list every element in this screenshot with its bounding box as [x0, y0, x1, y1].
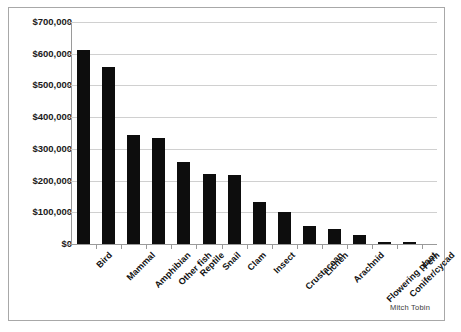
bar	[77, 50, 90, 244]
y-axis-labels: $0$100,000$200,000$300,000$400,000$500,0…	[9, 8, 72, 332]
chart-figure: $0$100,000$200,000$300,000$400,000$500,0…	[0, 0, 461, 332]
y-axis-tick	[66, 22, 71, 23]
x-axis-tick	[222, 245, 223, 249]
y-axis-tick-label: $500,000	[10, 80, 72, 90]
y-axis-tick	[66, 85, 71, 86]
bar	[353, 235, 366, 245]
bar	[378, 242, 391, 245]
x-axis-tick	[171, 245, 172, 249]
x-axis-tick-label: Insect	[272, 250, 297, 275]
x-axis-tick	[96, 245, 97, 249]
x-axis-tick	[247, 245, 248, 249]
chart-frame: $0$100,000$200,000$300,000$400,000$500,0…	[8, 7, 445, 321]
bar	[403, 242, 416, 244]
x-axis-tick-label: Arachnid	[351, 250, 386, 285]
bar	[253, 202, 266, 244]
bar	[177, 162, 190, 244]
x-axis-tick	[146, 245, 147, 249]
x-axis-tick-label: Snail	[220, 250, 242, 272]
x-axis-tick	[196, 245, 197, 249]
y-axis-tick-label: $100,000	[10, 207, 72, 217]
bar	[228, 175, 241, 244]
x-axis-tick-label: Bird	[94, 250, 114, 270]
y-axis-tick	[66, 212, 71, 213]
bar	[203, 174, 216, 244]
y-axis-tick-label: $300,000	[10, 144, 72, 154]
y-axis-tick	[66, 54, 71, 55]
y-axis-tick-label: $700,000	[10, 17, 72, 27]
x-axis-tick	[322, 245, 323, 249]
bar	[127, 135, 140, 244]
y-axis-tick-label: $200,000	[10, 176, 72, 186]
y-axis-tick	[66, 244, 71, 245]
y-axis-tick	[66, 149, 71, 150]
x-axis-tick	[121, 245, 122, 249]
chart-credit: Mitch Tobin	[390, 303, 430, 312]
bar-series	[71, 22, 437, 244]
gridline	[71, 244, 437, 245]
bar	[278, 212, 291, 244]
x-axis-tick-label: Clam	[246, 250, 269, 273]
bar	[102, 67, 115, 244]
x-axis-tick	[297, 245, 298, 249]
x-axis-tick	[272, 245, 273, 249]
x-axis-tick-label: Mammal	[124, 250, 157, 283]
x-axis-tick	[422, 245, 423, 249]
bar	[328, 229, 341, 244]
y-axis-tick-label: $400,000	[10, 112, 72, 122]
bar	[303, 226, 316, 244]
y-axis-tick-label: $0	[10, 239, 72, 249]
y-axis-tick	[66, 117, 71, 118]
x-axis-tick	[397, 245, 398, 249]
x-axis-tick	[347, 245, 348, 249]
bar	[152, 138, 165, 244]
y-axis-tick-label: $600,000	[10, 49, 72, 59]
x-axis-tick	[372, 245, 373, 249]
y-axis-tick	[66, 181, 71, 182]
